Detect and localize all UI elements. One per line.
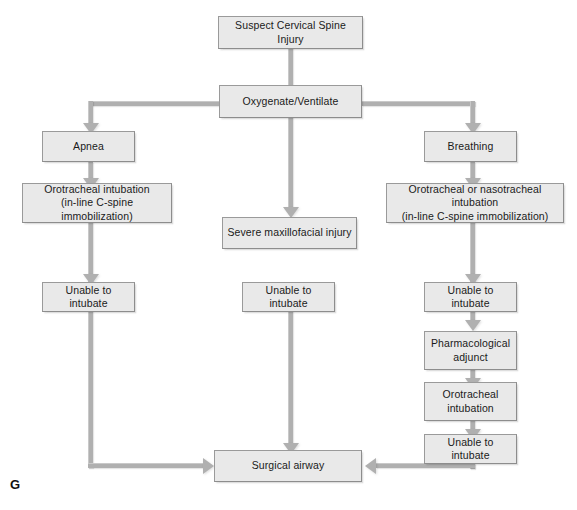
node-label: Unable to intubate	[47, 284, 130, 311]
node-label-line-1: Pharmacological	[429, 337, 512, 350]
node-label: Suspect Cervical Spine Injury	[223, 19, 358, 46]
connector-unable-left-drop	[88, 311, 93, 468]
node-unable-to-intubate-center[interactable]: Unable to intubate	[242, 282, 335, 312]
node-label-line-1: Orotracheal or nasotracheal intubation	[391, 183, 559, 210]
node-label: Oxygenate/Ventilate	[224, 95, 357, 108]
connector-orotracheal-to-unable-left	[88, 222, 93, 282]
node-suspect-cervical-spine-injury[interactable]: Suspect Cervical Spine Injury	[218, 16, 363, 49]
node-label: Unable to intubate	[429, 436, 512, 463]
arrowhead-to-pharmacological-adjunct	[465, 320, 481, 331]
node-apnea[interactable]: Apnea	[42, 131, 135, 162]
node-label-line-1: Orotracheal	[429, 388, 512, 401]
node-unable-to-intubate-right-second[interactable]: Unable to intubate	[424, 434, 517, 464]
node-label: Surgical airway	[219, 459, 357, 472]
connector-oxygenate-to-left-branch	[88, 101, 219, 106]
connector-unable-left-to-surgical	[88, 463, 208, 468]
figure-panel-label: G	[10, 477, 20, 492]
node-surgical-airway[interactable]: Surgical airway	[214, 450, 362, 482]
node-label-line-2: adjunct	[429, 351, 512, 364]
connector-oxygenate-to-maxillofacial	[288, 117, 293, 210]
node-oxygenate-ventilate[interactable]: Oxygenate/Ventilate	[219, 85, 362, 118]
node-unable-to-intubate-right-first[interactable]: Unable to intubate	[424, 282, 517, 312]
flowchart-airway-management: Suspect Cervical Spine Injury Oxygenate/…	[0, 0, 577, 510]
node-label-line-1: Orotracheal intubation	[27, 183, 167, 196]
connector-oro-naso-to-unable-right-1	[470, 222, 475, 282]
connector-unable-center-to-surgical	[288, 311, 293, 448]
node-severe-maxillofacial-injury[interactable]: Severe maxillofacial injury	[222, 217, 357, 249]
connector-oxygenate-to-right-branch	[362, 101, 475, 106]
node-orotracheal-intubation-right[interactable]: Orotracheal intubation	[424, 382, 517, 421]
node-unable-to-intubate-left[interactable]: Unable to intubate	[42, 282, 135, 312]
node-pharmacological-adjunct[interactable]: Pharmacological adjunct	[424, 331, 517, 370]
node-label: Severe maxillofacial injury	[227, 226, 352, 239]
node-label: Unable to intubate	[247, 284, 330, 311]
node-label: Breathing	[429, 140, 512, 153]
node-orotracheal-intubation-left[interactable]: Orotracheal intubation (in-line C-spine …	[22, 183, 172, 223]
connector-suspect-to-oxygenate	[288, 48, 293, 89]
arrowhead-to-surgical-airway-from-right	[365, 458, 376, 474]
node-label: Apnea	[47, 140, 130, 153]
node-label-line-2: (in-line C-spine immobilization)	[391, 210, 559, 223]
node-label-line-2: (in-line C-spine immobilization)	[27, 196, 167, 223]
node-orotracheal-or-nasotracheal-intubation[interactable]: Orotracheal or nasotracheal intubation (…	[386, 183, 564, 223]
arrowhead-to-surgical-airway-from-left	[203, 458, 214, 474]
node-label-line-2: intubation	[429, 402, 512, 415]
node-label: Unable to intubate	[429, 284, 512, 311]
node-breathing[interactable]: Breathing	[424, 131, 517, 162]
